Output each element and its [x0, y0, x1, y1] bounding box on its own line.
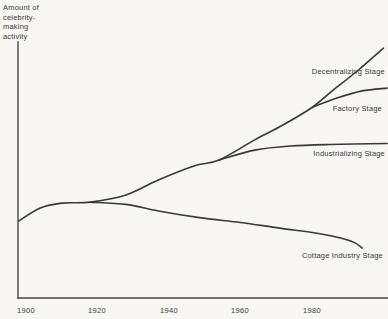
x-tick-1920: 1920 [82, 306, 112, 315]
x-tick-1900: 1900 [11, 306, 41, 315]
chart-canvas [0, 0, 388, 319]
industrializing-stage-label: Industrializing Stage [313, 149, 385, 158]
cottage-industry-stage-label: Cottage Industry Stage [302, 251, 383, 260]
x-tick-1980: 1980 [297, 306, 327, 315]
x-tick-1960: 1960 [225, 306, 255, 315]
celebrity-making-activity-chart: Amount of celebrity- making activity Dec… [0, 0, 388, 319]
x-tick-1940: 1940 [154, 306, 184, 315]
y-axis-label: Amount of celebrity- making activity [3, 3, 39, 41]
factory-stage-label: Factory Stage [333, 104, 382, 113]
decentralizing-stage-label: Decentralizing Stage [312, 67, 385, 76]
cottage-industry-stage-curve [90, 202, 362, 248]
